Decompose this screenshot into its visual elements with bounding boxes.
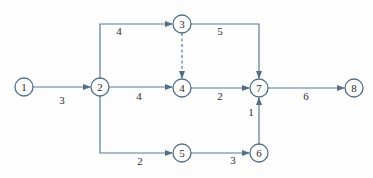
node-4: 4 — [173, 79, 191, 97]
node-8: 8 — [345, 79, 363, 97]
diagram-svg: 3 4 4 2 5 2 3 1 6 1 — [0, 0, 373, 178]
node-2-label: 2 — [97, 81, 103, 93]
edge-2-3 — [100, 24, 172, 78]
node-4-label: 4 — [179, 82, 185, 94]
edge-3-7 — [191, 24, 259, 78]
edge-label-6-7: 1 — [248, 106, 254, 118]
node-5-label: 5 — [179, 147, 185, 159]
node-6: 6 — [250, 144, 268, 162]
node-1: 1 — [15, 78, 33, 96]
node-7-label: 7 — [256, 82, 262, 94]
edge-label-4-7: 2 — [217, 90, 223, 102]
edges: 3 4 4 2 5 2 3 1 6 — [33, 24, 344, 167]
node-1-label: 1 — [21, 81, 27, 93]
edge-label-2-4: 4 — [136, 90, 142, 102]
edge-label-1-2: 3 — [59, 94, 65, 106]
network-diagram: 3 4 4 2 5 2 3 1 6 1 — [0, 0, 373, 178]
edge-2-5 — [100, 96, 172, 153]
node-2: 2 — [91, 78, 109, 96]
edge-label-2-3: 4 — [116, 25, 122, 37]
edge-label-7-8: 6 — [303, 90, 309, 102]
edge-label-2-5: 2 — [137, 155, 143, 167]
node-3-label: 3 — [179, 18, 185, 30]
edge-label-3-7: 5 — [217, 25, 223, 37]
node-3: 3 — [173, 15, 191, 33]
edge-label-5-6: 3 — [230, 154, 236, 166]
node-7: 7 — [250, 79, 268, 97]
node-5: 5 — [173, 144, 191, 162]
node-8-label: 8 — [351, 82, 357, 94]
node-6-label: 6 — [256, 147, 262, 159]
